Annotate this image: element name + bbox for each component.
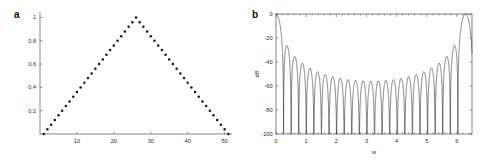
- data-point: [201, 100, 204, 103]
- panel-b: b 0-20-40-60-80-1000123456wdB: [240, 0, 480, 161]
- y-tick-label-a: 0.2: [28, 108, 36, 114]
- panel-a: a 0.20.40.60.811020304050: [0, 0, 240, 161]
- data-point: [142, 26, 145, 29]
- x-tick-label-a: 40: [185, 138, 191, 144]
- data-point: [194, 91, 197, 94]
- series-spectrum-db: [276, 14, 472, 134]
- data-point: [220, 123, 223, 126]
- data-point: [150, 35, 153, 38]
- panel-b-plot: 0-20-40-60-80-1000123456wdB: [240, 0, 480, 161]
- data-point: [113, 44, 116, 47]
- data-point: [205, 105, 208, 108]
- data-point: [146, 30, 149, 33]
- x-tick-label-b: 3: [365, 138, 368, 144]
- data-point: [175, 68, 178, 71]
- data-point: [179, 72, 182, 75]
- y-tick-label-a: 0.4: [28, 84, 36, 90]
- x-tick-label-b: 5: [425, 138, 428, 144]
- data-point: [190, 86, 193, 89]
- x-tick-label-a: 30: [148, 138, 154, 144]
- panel-a-plot: 0.20.40.60.811020304050: [0, 0, 240, 161]
- y-tick-label-a: 0.6: [28, 61, 36, 67]
- data-point: [109, 49, 112, 52]
- data-point: [161, 49, 164, 52]
- data-point: [57, 114, 60, 117]
- data-point: [186, 81, 189, 84]
- data-point: [198, 95, 201, 98]
- data-point: [76, 91, 79, 94]
- data-point: [94, 68, 97, 71]
- y-tick-label-a: 0.8: [28, 38, 36, 44]
- data-point: [50, 123, 53, 126]
- figure-container: a 0.20.40.60.811020304050 b 0-20-40-60-8…: [0, 0, 480, 161]
- x-tick-label-a: 10: [74, 138, 80, 144]
- data-point: [90, 72, 93, 75]
- x-tick-label-b: 4: [395, 138, 398, 144]
- y-tick-label-b: -20: [264, 35, 272, 41]
- data-point: [72, 95, 75, 98]
- y-tick-label-a: 1: [33, 14, 36, 20]
- data-point: [124, 30, 127, 33]
- data-point: [46, 128, 49, 131]
- x-tick-label-b: 0: [274, 138, 277, 144]
- data-point: [153, 40, 156, 43]
- data-point: [183, 77, 186, 80]
- y-tick-label-b: -40: [264, 59, 272, 65]
- data-point: [54, 119, 57, 122]
- data-point: [120, 35, 123, 38]
- data-point: [83, 81, 86, 84]
- data-point: [164, 54, 167, 57]
- data-point: [227, 133, 230, 136]
- data-point: [131, 21, 134, 24]
- data-point: [138, 21, 141, 24]
- x-tick-label-b: 1: [305, 138, 308, 144]
- data-point: [42, 133, 45, 136]
- data-point: [157, 44, 160, 47]
- y-tick-label-b: -80: [264, 107, 272, 113]
- data-point: [127, 26, 130, 29]
- x-tick-label-b: 6: [455, 138, 458, 144]
- x-tick-label-b: 2: [335, 138, 338, 144]
- data-point: [223, 128, 226, 131]
- y-tick-label-b: 0: [269, 11, 272, 17]
- data-point: [61, 109, 64, 112]
- y-tick-label-b: -60: [264, 83, 272, 89]
- data-point: [172, 63, 175, 66]
- data-point: [102, 58, 105, 61]
- data-point: [216, 119, 219, 122]
- data-point: [209, 109, 212, 112]
- x-tick-label-a: 50: [221, 138, 227, 144]
- data-point: [116, 40, 119, 43]
- data-point: [68, 100, 71, 103]
- data-point: [98, 63, 101, 66]
- data-point: [105, 54, 108, 57]
- data-point: [87, 77, 90, 80]
- y-tick-label-b: -100: [261, 131, 272, 137]
- y-axis-title-b: dB: [254, 70, 260, 77]
- data-point: [79, 86, 82, 89]
- data-point: [212, 114, 215, 117]
- series-triangular-window: [42, 16, 229, 135]
- x-tick-label-a: 20: [111, 138, 117, 144]
- data-point: [65, 105, 68, 108]
- x-axis-title-b: w: [371, 149, 377, 155]
- data-point: [135, 16, 138, 19]
- data-point: [168, 58, 171, 61]
